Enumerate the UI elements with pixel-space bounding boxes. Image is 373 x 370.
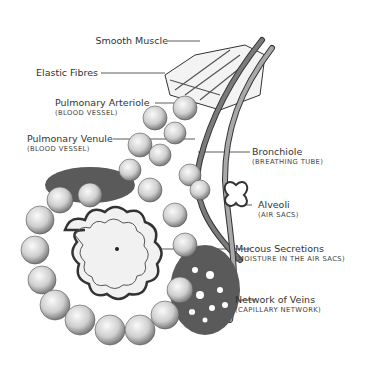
label-smooth-muscle: Smooth Muscle: [95, 35, 168, 46]
label-alveoli: Alveoli(AIR SACS): [258, 199, 299, 221]
bronchiole-cross-section: [225, 182, 248, 206]
label-pulmonary-arteriole: Pulmonary Arteriole(BLOOD VESSEL): [55, 97, 150, 119]
label-mucous-secretions: Mucous Secretions(MOISTURE IN THE AIR SA…: [235, 243, 345, 265]
label-pulmonary-venule: Pulmonary Venule(BLOOD VESSEL): [27, 133, 113, 155]
label-elastic-fibres: Elastic Fibres: [36, 67, 98, 78]
label-bronchiole: Bronchiole(BREATHING TUBE): [252, 146, 323, 168]
label-network-of-veins: Network of Veins(CAPILLARY NETWORK): [235, 294, 321, 316]
